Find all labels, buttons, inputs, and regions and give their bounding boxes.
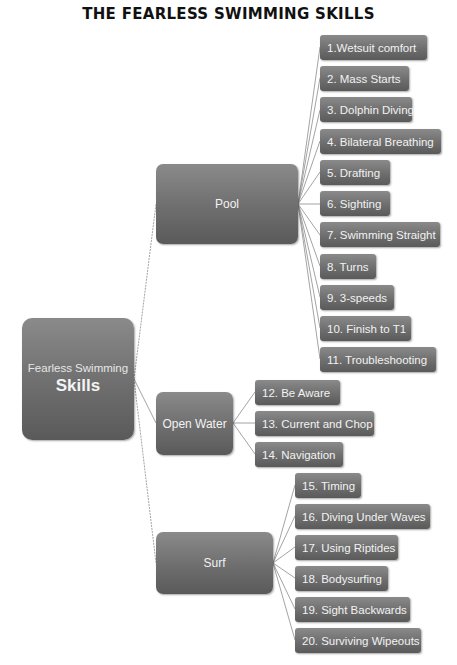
skill-node: 8. Turns	[320, 254, 376, 279]
skill-node: 6. Sighting	[320, 191, 390, 216]
category-node-open-water: Open Water	[156, 392, 233, 455]
category-label: Open Water	[162, 417, 226, 431]
root-label-line2: Skills	[56, 376, 100, 396]
skill-node: 13. Current and Chop	[255, 411, 374, 436]
skill-node: 9. 3-speeds	[320, 285, 394, 310]
skill-node: 10. Finish to T1	[320, 316, 411, 341]
root-label-line1: Fearless Swimming	[28, 362, 128, 374]
skill-node: 7. Swimming Straight	[320, 222, 440, 247]
skill-node: 3. Dolphin Diving	[320, 97, 412, 122]
category-node-pool: Pool	[156, 164, 298, 244]
category-label: Pool	[215, 197, 239, 211]
skill-node: 5. Drafting	[320, 160, 390, 185]
skill-node: 2. Mass Starts	[320, 66, 409, 91]
skill-node: 17. Using Riptides	[295, 535, 398, 560]
root-node: Fearless Swimming Skills	[22, 318, 134, 440]
skill-node: 11. Troubleshooting	[320, 347, 436, 372]
skill-node: 14. Navigation	[255, 442, 343, 467]
category-label: Surf	[203, 556, 225, 570]
skill-node: 18. Bodysurfing	[295, 566, 388, 591]
category-node-surf: Surf	[156, 532, 273, 594]
skill-node: 12. Be Aware	[255, 380, 340, 405]
skill-node: 16. Diving Under Waves	[295, 504, 430, 529]
skill-node: 4. Bilateral Breathing	[320, 129, 441, 154]
skill-node: 1.Wetsuit comfort	[320, 35, 427, 60]
skill-node: 19. Sight Backwards	[295, 597, 410, 622]
skill-node: 20. Surviving Wipeouts	[295, 628, 421, 653]
skill-node: 15. Timing	[295, 473, 361, 498]
